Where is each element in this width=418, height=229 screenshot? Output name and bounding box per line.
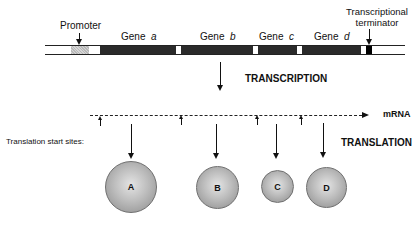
- translation-arrow-b-icon: [216, 124, 217, 154]
- gene-a-label: Gene a: [121, 31, 157, 42]
- start-site-arrow-icon: [181, 119, 182, 125]
- transcription-label: TRANSCRIPTION: [245, 73, 327, 84]
- mrna-strand: [90, 115, 362, 116]
- start-site-arrow-icon: [301, 119, 302, 125]
- protein-a: A: [105, 161, 157, 213]
- gene-a-region: [100, 46, 176, 54]
- gene-b-label: Gene b: [200, 31, 236, 42]
- translation-arrow-d-icon: [323, 123, 324, 153]
- protein-c: C: [261, 170, 294, 203]
- transcription-arrow-icon: [220, 62, 221, 86]
- translation-arrow-a-icon: [131, 124, 132, 154]
- terminator-arrow-icon: [369, 29, 370, 40]
- dna-bottom-line: [45, 54, 405, 55]
- translation-arrow-c-icon: [276, 124, 277, 154]
- protein-b: B: [196, 166, 239, 209]
- promoter-arrow-icon: [79, 33, 80, 40]
- terminator-label: Transcriptional terminator: [337, 6, 417, 28]
- start-sites-label: Translation start sites:: [6, 137, 84, 146]
- mrna-arrowhead-icon: [362, 112, 369, 118]
- translation-label: TRANSLATION: [341, 137, 412, 148]
- gene-d-label: Gene d: [314, 31, 350, 42]
- gene-c-region: [258, 46, 297, 54]
- mrna-label: mRNA: [383, 109, 411, 119]
- start-site-arrow-icon: [257, 119, 258, 125]
- start-site-arrow-icon: [100, 120, 101, 126]
- terminator-region: [366, 46, 372, 54]
- promoter-label: Promoter: [60, 20, 101, 31]
- promoter-region: [71, 46, 89, 54]
- gene-c-label: Gene c: [259, 31, 294, 42]
- gene-b-region: [181, 46, 253, 54]
- protein-d: D: [306, 167, 347, 208]
- gene-d-region: [302, 46, 361, 54]
